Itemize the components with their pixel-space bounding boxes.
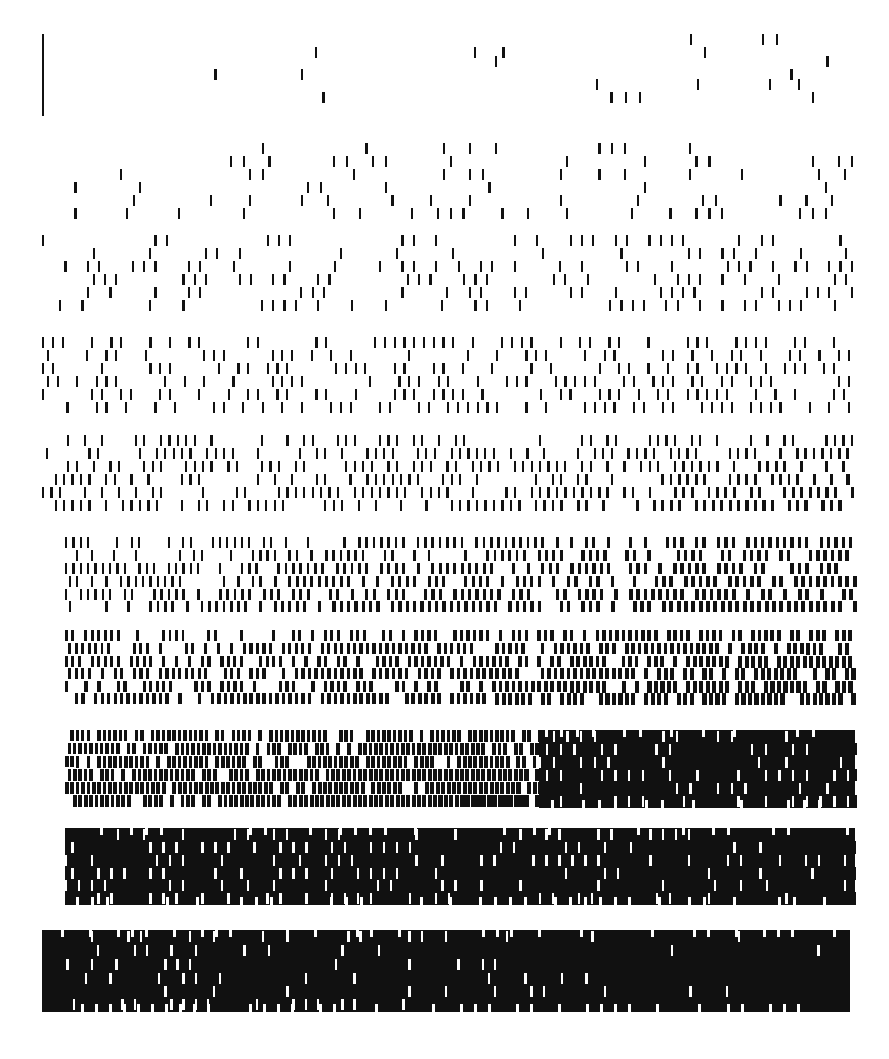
dash-mark — [626, 261, 628, 272]
dash-mark — [109, 563, 111, 574]
dash-mark — [385, 182, 387, 193]
dash-mark — [162, 782, 166, 794]
dash-mark — [205, 274, 207, 285]
dash-mark — [706, 576, 710, 587]
white-gap — [65, 855, 67, 866]
white-gap — [457, 959, 459, 970]
dash-mark — [227, 656, 230, 667]
dash-mark — [458, 261, 460, 272]
dash-mark — [274, 601, 277, 612]
dash-mark — [359, 668, 363, 679]
dash-mark — [334, 756, 338, 768]
dash-mark — [699, 576, 703, 587]
dash-mark — [151, 782, 155, 794]
white-gap — [175, 893, 177, 904]
dash-mark — [334, 261, 336, 272]
dash-mark — [505, 487, 507, 498]
dash-mark — [806, 693, 810, 705]
dash-mark — [477, 376, 479, 387]
dash-mark — [540, 389, 542, 400]
band-10 — [42, 930, 850, 1012]
edge-notch-bottom — [778, 897, 781, 905]
dash-mark — [226, 589, 229, 600]
white-gap — [594, 757, 596, 768]
dash-mark — [787, 643, 791, 654]
dash-mark — [237, 693, 241, 704]
dash-mark — [229, 769, 233, 781]
pattern-canvas — [0, 0, 889, 1059]
dash-mark — [353, 643, 356, 654]
dash-mark — [327, 643, 330, 654]
dash-mark — [530, 576, 533, 587]
white-gap — [545, 829, 547, 840]
dash-mark — [291, 474, 293, 485]
dash-mark — [745, 500, 748, 511]
dash-mark — [535, 743, 539, 755]
white-gap — [844, 880, 846, 891]
edge-notch-top — [702, 730, 705, 737]
dash-mark — [194, 756, 198, 768]
dash-mark — [474, 47, 476, 58]
dash-mark — [647, 601, 651, 612]
dash-mark — [350, 350, 352, 361]
dash-mark — [699, 630, 703, 641]
dash-mark — [321, 563, 324, 574]
dash-mark — [489, 668, 493, 679]
dash-mark — [499, 681, 503, 692]
edge-notch-top — [545, 730, 548, 737]
dash-mark — [149, 601, 152, 612]
dash-mark — [461, 589, 464, 600]
dash-mark — [197, 563, 199, 574]
dash-mark — [272, 795, 276, 807]
dash-mark — [288, 693, 292, 704]
dash-mark — [519, 300, 521, 311]
dash-mark — [274, 550, 276, 561]
dash-mark — [491, 363, 493, 374]
dash-mark — [594, 448, 596, 459]
edge-notch-bottom — [614, 1004, 617, 1012]
white-gap — [847, 770, 849, 781]
dash-mark — [139, 500, 141, 511]
dash-mark — [103, 730, 106, 741]
dash-mark — [484, 730, 488, 742]
dash-mark — [149, 300, 151, 311]
white-gap — [662, 757, 664, 768]
dash-mark — [598, 487, 601, 498]
dash-mark — [288, 769, 292, 781]
dash-mark — [702, 589, 706, 600]
dash-mark — [439, 563, 442, 574]
dash-mark — [606, 461, 608, 472]
dash-mark — [396, 769, 400, 781]
white-gap — [759, 868, 761, 879]
dash-mark — [500, 756, 504, 768]
dash-mark — [127, 576, 129, 587]
dash-mark — [838, 550, 842, 561]
dash-mark — [289, 261, 291, 272]
dash-mark — [495, 143, 497, 154]
white-gap — [134, 999, 136, 1010]
dash-mark — [421, 461, 423, 472]
dash-mark — [653, 448, 655, 459]
dash-mark — [430, 756, 434, 768]
dash-mark — [724, 537, 727, 548]
dash-mark — [845, 274, 847, 285]
white-gap — [604, 986, 606, 997]
dash-mark — [514, 235, 516, 246]
dash-mark — [662, 376, 664, 387]
dash-mark — [667, 389, 669, 400]
dash-mark — [303, 576, 306, 587]
dash-mark — [658, 563, 661, 574]
dash-mark — [406, 743, 410, 755]
dash-mark — [156, 681, 159, 692]
dash-mark — [210, 782, 214, 794]
dash-mark — [198, 389, 200, 400]
dash-mark — [304, 656, 307, 667]
dash-mark — [304, 769, 308, 781]
dash-mark — [757, 601, 761, 612]
dash-mark — [405, 643, 408, 654]
dash-mark — [385, 156, 387, 167]
dash-mark — [729, 500, 732, 511]
dash-mark — [649, 487, 652, 498]
dash-mark — [717, 537, 720, 548]
dash-mark — [247, 389, 249, 400]
